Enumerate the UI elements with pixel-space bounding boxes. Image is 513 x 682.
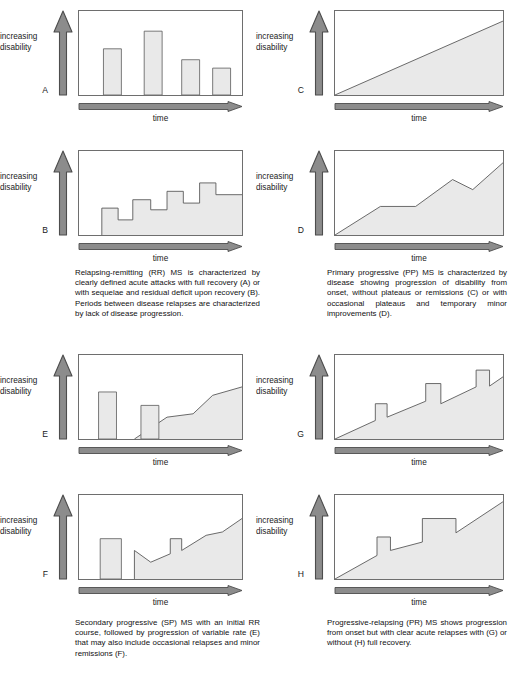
time-arrow-icon — [78, 241, 243, 252]
time-arrow-icon — [334, 585, 504, 596]
panel-C: increasingdisability C time — [256, 4, 513, 130]
panel-C-ylabel: increasingdisability — [256, 32, 302, 53]
panel-E-ylabel: increasingdisability — [0, 376, 46, 397]
increasing-disability-arrow-icon — [52, 150, 74, 236]
panel-E-letter: E — [28, 429, 48, 439]
panel-F: increasingdisability F time — [0, 488, 256, 612]
increasing-disability-arrow-icon — [308, 150, 330, 236]
time-arrow-icon — [334, 241, 504, 252]
panel-C-xlabel: time — [334, 114, 504, 123]
time-arrow-icon — [334, 101, 504, 112]
time-arrow-icon — [78, 101, 243, 112]
panel-H-plot — [334, 494, 504, 580]
panel-G-letter: G — [284, 429, 304, 439]
panel-H-xlabel: time — [334, 598, 504, 607]
caption-secondary-progressive: Secondary progressive (SP) MS with an in… — [75, 618, 260, 659]
panel-B-plot — [78, 150, 243, 236]
caption-progressive-relapsing: Progressive-relapsing (PR) MS shows prog… — [327, 618, 507, 649]
panel-A: increasingdisability A — [0, 4, 256, 130]
panel-F-plot — [78, 494, 243, 580]
panel-A-letter: A — [28, 85, 48, 95]
time-arrow-icon — [78, 445, 243, 456]
increasing-disability-arrow-icon — [308, 494, 330, 580]
panel-F-xlabel: time — [78, 598, 243, 607]
panel-B-xlabel: time — [78, 254, 243, 263]
caption-relapsing-remitting: Relapsing-remitting (RR) MS is character… — [75, 268, 260, 319]
panel-F-ylabel: increasingdisability — [0, 516, 46, 537]
panel-D-plot — [334, 150, 504, 236]
panel-E-plot — [78, 354, 243, 440]
panel-D-ylabel: increasingdisability — [256, 172, 302, 193]
panel-B: increasingdisability B time — [0, 144, 256, 266]
increasing-disability-arrow-icon — [52, 494, 74, 580]
panel-E: increasingdisability E — [0, 348, 256, 472]
panel-D-letter: D — [284, 225, 304, 235]
panel-E-xlabel: time — [78, 458, 243, 467]
panel-C-plot — [334, 10, 504, 96]
ms-disease-course-figure: increasingdisability A — [0, 0, 513, 682]
panel-A-xlabel: time — [78, 114, 243, 123]
time-arrow-icon — [334, 445, 504, 456]
panel-H-ylabel: increasingdisability — [256, 516, 302, 537]
panel-G-plot — [334, 354, 504, 440]
time-arrow-icon — [78, 585, 243, 596]
panel-C-letter: C — [284, 85, 304, 95]
increasing-disability-arrow-icon — [52, 10, 74, 96]
panel-G-xlabel: time — [334, 458, 504, 467]
increasing-disability-arrow-icon — [308, 354, 330, 440]
panel-A-ylabel: increasingdisability — [0, 32, 46, 53]
panel-B-ylabel: increasingdisability — [0, 172, 46, 193]
panel-D-xlabel: time — [334, 254, 504, 263]
increasing-disability-arrow-icon — [308, 10, 330, 96]
panel-H: increasingdisability H time — [256, 488, 513, 612]
panel-B-letter: B — [28, 225, 48, 235]
increasing-disability-arrow-icon — [52, 354, 74, 440]
panel-D: increasingdisability D time — [256, 144, 513, 266]
panel-G-ylabel: increasingdisability — [256, 376, 302, 397]
panel-H-letter: H — [284, 569, 304, 579]
caption-primary-progressive: Primary progressive (PP) MS is character… — [327, 268, 507, 319]
panel-G: increasingdisability G time — [256, 348, 513, 472]
panel-A-plot — [78, 10, 243, 96]
panel-F-letter: F — [28, 569, 48, 579]
